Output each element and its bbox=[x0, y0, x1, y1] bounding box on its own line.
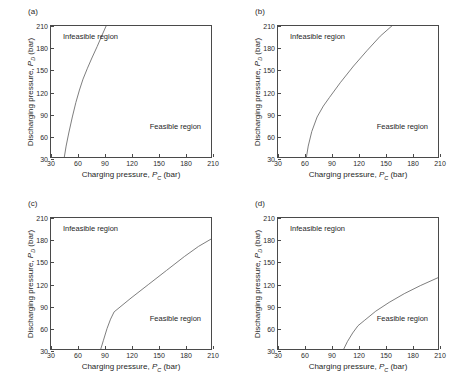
y-tick bbox=[278, 137, 281, 138]
x-tick bbox=[78, 154, 79, 157]
x-axis-title-a: Charging pressure, PC (bar) bbox=[50, 170, 212, 181]
x-tick bbox=[413, 154, 414, 157]
y-tick-label: 180 bbox=[36, 45, 48, 52]
y-tick bbox=[278, 262, 281, 263]
x-tick bbox=[359, 346, 360, 349]
y-tick-label: 120 bbox=[36, 89, 48, 96]
x-tick bbox=[132, 346, 133, 349]
label-infeasible-b: Infeasible region bbox=[290, 32, 345, 41]
y-tick-label: 180 bbox=[263, 45, 275, 52]
y-tick-label: 150 bbox=[36, 259, 48, 266]
x-tick-label: 150 bbox=[153, 352, 165, 359]
x-tick-label: 150 bbox=[380, 352, 392, 359]
y-tick bbox=[278, 48, 281, 49]
x-tick-label: 90 bbox=[328, 352, 336, 359]
y-tick bbox=[278, 115, 281, 116]
plot-area-b: Infeasible region Feasible region 306090… bbox=[277, 25, 439, 158]
y-tick bbox=[51, 329, 54, 330]
x-tick-label: 180 bbox=[407, 352, 419, 359]
y-tick-label: 90 bbox=[40, 303, 48, 310]
label-feasible-b: Feasible region bbox=[377, 122, 428, 131]
x-tick bbox=[332, 346, 333, 349]
y-tick bbox=[278, 93, 281, 94]
x-tick bbox=[213, 346, 214, 349]
curve-a bbox=[51, 26, 211, 157]
x-tick bbox=[186, 154, 187, 157]
panel-letter: (a) bbox=[28, 7, 38, 16]
x-tick bbox=[386, 346, 387, 349]
y-tick-label: 210 bbox=[36, 23, 48, 30]
y-tick bbox=[51, 115, 54, 116]
x-tick bbox=[440, 154, 441, 157]
y-tick-label: 210 bbox=[263, 215, 275, 222]
x-tick-label: 210 bbox=[207, 160, 219, 167]
x-tick-label: 60 bbox=[74, 352, 82, 359]
panel-d: (d) Infeasible region Feasible region 30… bbox=[227, 192, 455, 383]
panel-letter: (c) bbox=[28, 199, 38, 208]
x-tick-label: 90 bbox=[328, 160, 336, 167]
figure-grid: (a) Infeasible region Feasible region 30… bbox=[0, 0, 455, 383]
x-tick bbox=[305, 154, 306, 157]
x-tick-label: 30 bbox=[274, 352, 282, 359]
x-tick-label: 150 bbox=[380, 160, 392, 167]
x-axis-title-c: Charging pressure, PC (bar) bbox=[50, 362, 212, 373]
panel-letter: (d) bbox=[255, 199, 265, 208]
x-tick bbox=[159, 154, 160, 157]
x-tick bbox=[278, 346, 279, 349]
x-tick-label: 120 bbox=[353, 352, 365, 359]
label-feasible-c: Feasible region bbox=[150, 314, 201, 323]
x-tick-label: 180 bbox=[180, 352, 192, 359]
y-tick-label: 60 bbox=[267, 325, 275, 332]
y-tick bbox=[51, 93, 54, 94]
y-tick-label: 90 bbox=[267, 303, 275, 310]
x-tick-label: 180 bbox=[180, 160, 192, 167]
x-tick bbox=[159, 346, 160, 349]
y-tick-label: 180 bbox=[36, 237, 48, 244]
label-feasible-a: Feasible region bbox=[150, 122, 201, 131]
x-tick bbox=[78, 346, 79, 349]
x-tick-label: 30 bbox=[274, 160, 282, 167]
x-tick-label: 90 bbox=[101, 160, 109, 167]
x-tick-label: 210 bbox=[207, 352, 219, 359]
y-tick bbox=[278, 329, 281, 330]
x-tick bbox=[105, 154, 106, 157]
x-axis-title-d: Charging pressure, PC (bar) bbox=[277, 362, 439, 373]
panel-c: (c) Infeasible region Feasible region 30… bbox=[0, 192, 227, 383]
label-infeasible-c: Infeasible region bbox=[63, 224, 118, 233]
y-tick bbox=[278, 26, 281, 27]
y-tick-label: 60 bbox=[40, 325, 48, 332]
curve-b bbox=[278, 26, 438, 157]
y-tick-label: 150 bbox=[263, 259, 275, 266]
y-tick-label: 180 bbox=[263, 237, 275, 244]
x-tick-label: 120 bbox=[126, 160, 138, 167]
y-tick bbox=[51, 262, 54, 263]
x-tick-label: 30 bbox=[47, 160, 55, 167]
panel-a: (a) Infeasible region Feasible region 30… bbox=[0, 0, 227, 192]
curve-d bbox=[278, 218, 438, 349]
x-tick bbox=[305, 346, 306, 349]
label-infeasible-a: Infeasible region bbox=[63, 32, 118, 41]
y-tick-label: 150 bbox=[36, 67, 48, 74]
y-tick bbox=[51, 48, 54, 49]
x-tick bbox=[51, 154, 52, 157]
x-tick-label: 60 bbox=[301, 352, 309, 359]
x-tick-label: 90 bbox=[101, 352, 109, 359]
y-tick-label: 60 bbox=[40, 133, 48, 140]
curve-c bbox=[51, 218, 211, 349]
plot-area-c: Infeasible region Feasible region 306090… bbox=[50, 217, 212, 350]
x-tick bbox=[186, 346, 187, 349]
x-tick-label: 180 bbox=[407, 160, 419, 167]
y-tick bbox=[51, 26, 54, 27]
y-tick bbox=[51, 307, 54, 308]
y-tick-label: 210 bbox=[36, 215, 48, 222]
x-tick bbox=[105, 346, 106, 349]
x-tick bbox=[332, 154, 333, 157]
feasibility-boundary-c bbox=[101, 239, 211, 349]
y-axis-title-d: Discharging pressure, PD (bar) bbox=[241, 217, 253, 350]
y-tick-label: 90 bbox=[40, 111, 48, 118]
label-feasible-d: Feasible region bbox=[377, 314, 428, 323]
x-tick bbox=[278, 154, 279, 157]
y-tick-label: 90 bbox=[267, 111, 275, 118]
y-tick bbox=[51, 137, 54, 138]
x-tick-label: 210 bbox=[434, 160, 446, 167]
